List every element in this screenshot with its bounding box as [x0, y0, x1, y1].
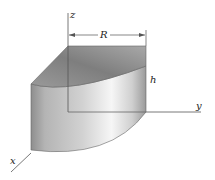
- radius-arrow-left-icon: [69, 33, 75, 37]
- radius-arrow-right-icon: [139, 33, 145, 37]
- radius-label: R: [99, 29, 108, 40]
- height-label: h: [150, 74, 156, 85]
- y-axis-label: y: [195, 100, 202, 111]
- quarter-cylinder-diagram: z R h y x: [0, 0, 215, 180]
- x-axis-label: x: [10, 155, 16, 166]
- z-axis-label: z: [69, 9, 76, 20]
